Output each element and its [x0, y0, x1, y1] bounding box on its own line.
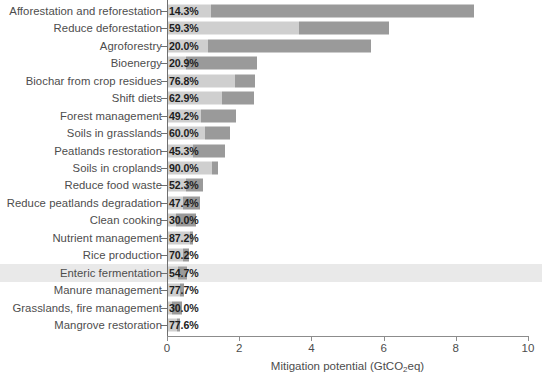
bar-percent-label: 59.3% — [167, 22, 199, 34]
table-row: Shift diets62.9% — [0, 89, 542, 106]
bar-percent-label: 70.2% — [167, 249, 199, 261]
category-label: Soils in croplands — [73, 162, 167, 174]
category-label: Biochar from crop residues — [26, 75, 167, 87]
category-label: Bioenergy — [111, 57, 167, 69]
table-row: Mangrove restoration77.6% — [0, 317, 542, 334]
category-label: Grasslands, fire management — [12, 302, 167, 314]
bar-percent-label: 20.0% — [167, 40, 199, 52]
x-axis-tick-label: 0 — [164, 342, 170, 354]
bar-percent-label: 54.7% — [167, 267, 199, 279]
category-label: Rice production — [83, 249, 167, 261]
x-axis-title: Mitigation potential (GtCO2eq) — [167, 360, 528, 372]
bar — [167, 4, 474, 17]
x-axis-tick — [239, 336, 240, 341]
x-axis-line — [167, 336, 528, 337]
x-axis-tick-label: 8 — [453, 342, 459, 354]
category-label: Reduce deforestation — [54, 22, 167, 34]
table-row: Enteric fermentation54.7% — [0, 264, 542, 281]
x-axis-tick-label: 2 — [236, 342, 242, 354]
bar-segment-remainder — [201, 109, 236, 122]
table-row: Bioenergy20.9% — [0, 54, 542, 71]
table-row: Nutrient management87.2% — [0, 229, 542, 246]
bar-percent-label: 47.4% — [167, 197, 199, 209]
x-axis-title-pre: Mitigation potential (GtCO — [271, 360, 403, 372]
bar-segment-remainder — [211, 4, 474, 17]
bar-percent-label: 90.0% — [167, 162, 199, 174]
category-label: Nutrient management — [52, 232, 167, 244]
bar — [167, 22, 389, 35]
bar-percent-label: 60.0% — [167, 127, 199, 139]
table-row: Reduce peatlands degradation47.4% — [0, 194, 542, 211]
bar-percent-label: 77.6% — [167, 319, 199, 331]
category-label: Shift diets — [112, 92, 167, 104]
x-axis-tick-label: 10 — [522, 342, 535, 354]
table-row: Reduce deforestation59.3% — [0, 19, 542, 36]
category-label: Reduce food waste — [64, 179, 167, 191]
table-row: Afforestation and reforestation14.3% — [0, 2, 542, 19]
category-label: Peatlands restoration — [54, 145, 167, 157]
x-axis-tick-label: 6 — [380, 342, 386, 354]
bar-rows-layer: Afforestation and reforestation14.3%Redu… — [0, 0, 542, 336]
bar-percent-label: 52.3% — [167, 179, 199, 191]
x-axis-tick — [311, 336, 312, 341]
mitigation-potential-chart: Afforestation and reforestation14.3%Redu… — [0, 0, 542, 388]
category-label: Enteric fermentation — [60, 267, 167, 279]
x-axis-tick — [528, 336, 529, 341]
table-row: Clean cooking30.0% — [0, 212, 542, 229]
bar-percent-label: 30.0% — [167, 302, 199, 314]
bar-segment-remainder — [205, 127, 230, 140]
x-axis-tick — [456, 336, 457, 341]
bar-percent-label: 87.2% — [167, 232, 199, 244]
bar-segment-remainder — [235, 74, 256, 87]
bar-segment-remainder — [299, 22, 389, 35]
category-label: Afforestation and reforestation — [9, 5, 167, 17]
bar-percent-label: 45.3% — [167, 145, 199, 157]
category-label: Reduce peatlands degradation — [7, 197, 167, 209]
table-row: Forest management49.2% — [0, 107, 542, 124]
table-row: Agroforestry20.0% — [0, 37, 542, 54]
bar-segment-remainder — [208, 39, 371, 52]
category-label: Clean cooking — [90, 214, 167, 226]
table-row: Biochar from crop residues76.8% — [0, 72, 542, 89]
bar-percent-label: 62.9% — [167, 92, 199, 104]
y-axis-line — [167, 0, 168, 336]
cut-off-caption — [0, 379, 542, 388]
x-axis-title-post: eq) — [408, 360, 425, 372]
table-row: Soils in grasslands60.0% — [0, 124, 542, 141]
category-label: Manure management — [54, 284, 167, 296]
category-label: Mangrove restoration — [54, 319, 167, 331]
x-axis-title-subscript: 2 — [403, 365, 407, 374]
table-row: Soils in croplands90.0% — [0, 159, 542, 176]
table-row: Manure management77.7% — [0, 282, 542, 299]
table-row: Peatlands restoration45.3% — [0, 142, 542, 159]
category-label: Forest management — [60, 110, 167, 122]
bar-percent-label: 20.9% — [167, 57, 199, 69]
bar-segment-remainder — [222, 92, 254, 105]
plot-area: Afforestation and reforestation14.3%Redu… — [0, 0, 542, 336]
category-label: Agroforestry — [100, 40, 167, 52]
category-label: Soils in grasslands — [67, 127, 167, 139]
table-row: Reduce food waste52.3% — [0, 177, 542, 194]
bar-segment-remainder — [212, 161, 217, 174]
x-axis-tick-label: 4 — [308, 342, 314, 354]
bar-percent-label: 77.7% — [167, 284, 199, 296]
bar-percent-label: 30.0% — [167, 214, 199, 226]
table-row: Rice production70.2% — [0, 247, 542, 264]
bar-percent-label: 76.8% — [167, 75, 199, 87]
bar-percent-label: 49.2% — [167, 110, 199, 122]
x-axis-tick — [167, 336, 168, 341]
bar-percent-label: 14.3% — [167, 5, 199, 17]
table-row: Grasslands, fire management30.0% — [0, 299, 542, 316]
x-axis-tick — [384, 336, 385, 341]
